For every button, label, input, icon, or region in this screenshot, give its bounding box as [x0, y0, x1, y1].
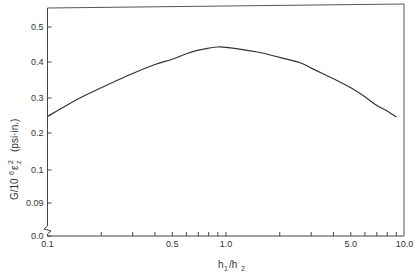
y-tick-label: 0.4 — [31, 57, 44, 67]
svg-text:1: 1 — [224, 265, 228, 272]
svg-text:z: z — [15, 160, 22, 164]
x-tick-label: 0.1 — [41, 239, 54, 249]
y-tick-label: 0.5 — [31, 22, 44, 32]
plot-frame — [44, 4, 404, 236]
y-tick-label: 0.2 — [31, 128, 44, 138]
y-tick-label: 0.1 — [31, 165, 44, 175]
line-chart: 0.50.40.30.20.10.090.0 0.10.51.05.010.0 … — [0, 0, 416, 277]
x-tick-label: 5.0 — [345, 239, 358, 249]
svg-text:6: 6 — [8, 171, 15, 175]
x-tick-label: 10.0 — [396, 239, 414, 249]
y-axis-title: G/10 6 ε z 2 (psi·in.) — [7, 119, 22, 200]
svg-text:/h: /h — [229, 259, 237, 270]
svg-text:G/10: G/10 — [9, 178, 20, 200]
x-tick-label: 0.5 — [166, 239, 179, 249]
data-curve — [48, 47, 397, 117]
svg-text:2: 2 — [241, 265, 245, 272]
svg-text:ε: ε — [9, 165, 20, 170]
svg-text:(psi·in.): (psi·in.) — [9, 119, 20, 152]
top-border — [48, 4, 405, 8]
y-tick-label: 0.09 — [26, 198, 44, 208]
axis-break-icon — [44, 226, 51, 236]
x-axis-title: h 1 /h 2 — [218, 259, 245, 272]
svg-text:h: h — [218, 259, 224, 270]
x-axis-ticks: 0.10.51.05.010.0 — [41, 232, 413, 249]
svg-text:2: 2 — [7, 160, 14, 164]
x-tick-label: 1.0 — [220, 239, 233, 249]
y-tick-label: 0.3 — [31, 93, 44, 103]
